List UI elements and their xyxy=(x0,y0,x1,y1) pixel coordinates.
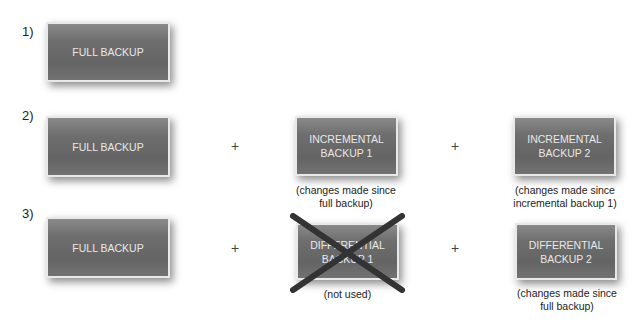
box-label: FULL BACKUP xyxy=(72,241,143,255)
row-3-differential-2-note: (changes made since full backup) xyxy=(496,287,638,313)
box-label: DIFFERENTIAL BACKUP 2 xyxy=(529,238,604,266)
row-2-label: 2) xyxy=(22,108,34,123)
box-label: INCREMENTAL BACKUP 1 xyxy=(309,132,383,160)
row-2-incremental-1-note: (changes made since full backup) xyxy=(276,184,416,210)
plus-operator: + xyxy=(451,138,459,154)
box-label: FULL BACKUP xyxy=(72,140,143,154)
row-2-incremental-backup-2-box: INCREMENTAL BACKUP 2 xyxy=(513,116,616,176)
row-3-full-backup-box: FULL BACKUP xyxy=(46,217,170,278)
row-3-label: 3) xyxy=(22,206,34,221)
row-3-differential-backup-2-box: DIFFERENTIAL BACKUP 2 xyxy=(515,223,617,280)
plus-operator: + xyxy=(451,240,459,256)
plus-operator: + xyxy=(231,138,239,154)
row-1-full-backup-box: FULL BACKUP xyxy=(46,22,170,82)
row-1-label: 1) xyxy=(22,24,34,39)
box-label: INCREMENTAL BACKUP 2 xyxy=(527,132,601,160)
plus-operator: + xyxy=(231,240,239,256)
box-label: FULL BACKUP xyxy=(72,45,143,59)
crossed-out-icon xyxy=(288,213,408,293)
row-2-incremental-backup-1-box: INCREMENTAL BACKUP 1 xyxy=(295,116,398,176)
row-2-incremental-2-note: (changes made since incremental backup 1… xyxy=(494,184,636,210)
row-3-differential-1-note: (not used) xyxy=(300,288,395,301)
row-2-full-backup-box: FULL BACKUP xyxy=(46,116,170,177)
